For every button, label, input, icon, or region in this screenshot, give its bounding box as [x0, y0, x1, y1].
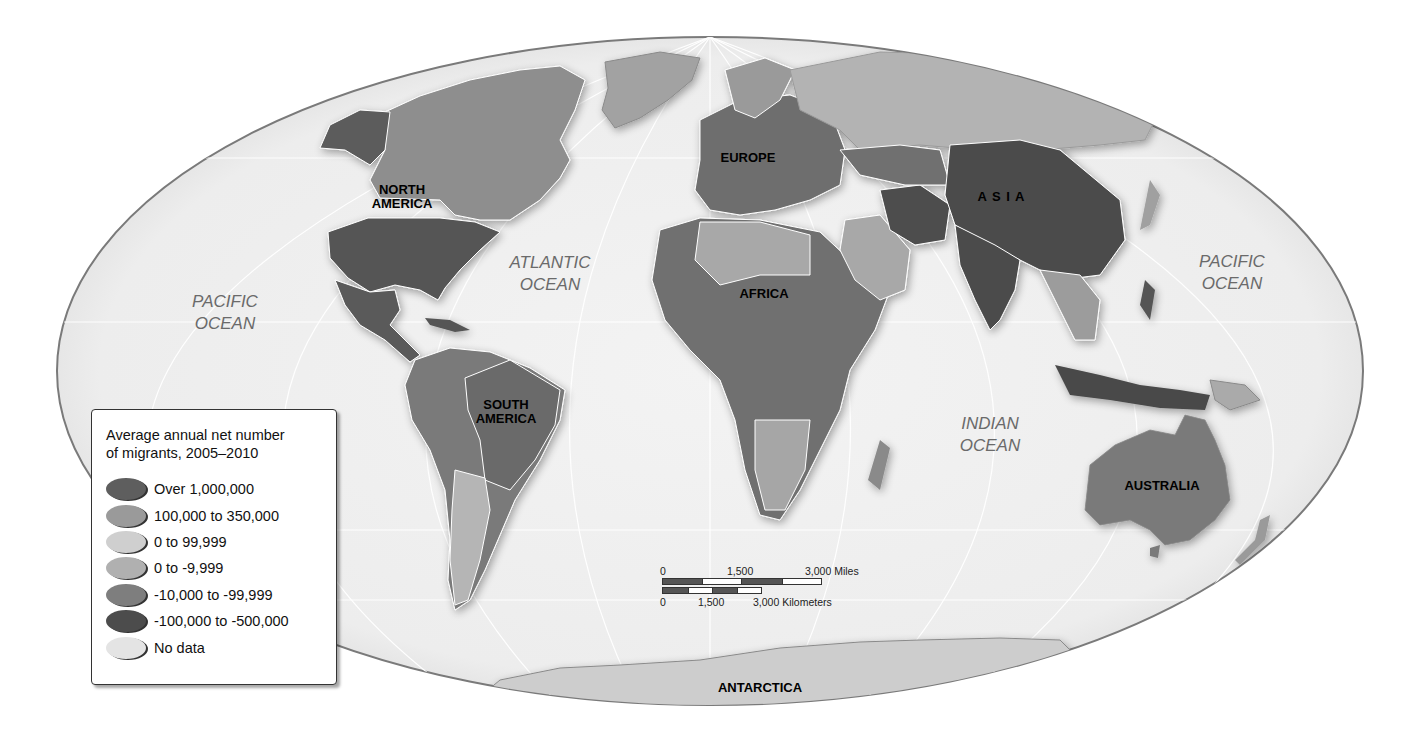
legend-label: Over 1,000,000 [154, 481, 254, 497]
legend-swatch-icon [106, 531, 146, 553]
legend-swatch-icon [106, 505, 146, 527]
legend-label: No data [154, 640, 205, 656]
label-australia: AUSTRALIA [1112, 479, 1212, 493]
label-line: AMERICA [466, 412, 546, 426]
legend-label: 0 to 99,999 [154, 534, 227, 550]
label-antarctica: ANTARCTICA [700, 681, 820, 695]
legend-title-line: of migrants, 2005–2010 [106, 444, 322, 462]
scale-miles-1500: 1,500 [727, 566, 753, 577]
label-south-america: SOUTH AMERICA [466, 398, 546, 426]
legend-item: No data [106, 634, 322, 660]
label-line: OCEAN [945, 435, 1035, 457]
label-line: AFRICA [729, 287, 799, 301]
label-line: AMERICA [362, 197, 442, 211]
russia [790, 52, 1160, 150]
legend-item: 0 to -9,999 [106, 555, 322, 581]
label-line: OCEAN [180, 313, 270, 335]
legend-item: 0 to 99,999 [106, 529, 322, 555]
legend-label: -10,000 to -99,999 [154, 587, 273, 603]
scale-km-0: 0 [660, 597, 666, 608]
label-line: OCEAN [1187, 273, 1277, 295]
legend-item: Over 1,000,000 [106, 476, 322, 502]
label-line: ANTARCTICA [700, 681, 820, 695]
label-line: INDIAN [945, 413, 1035, 435]
legend-item: 100,000 to 350,000 [106, 502, 322, 528]
legend-swatch-icon [106, 584, 146, 606]
label-line: PACIFIC [1187, 251, 1277, 273]
label-line: EUROPE [710, 151, 786, 165]
label-line: A S I A [966, 190, 1036, 204]
label-asia: A S I A [966, 190, 1036, 204]
legend-swatch-icon [106, 557, 146, 579]
label-north-america: NORTH AMERICA [362, 183, 442, 211]
label-line: OCEAN [500, 274, 600, 296]
label-line: NORTH [362, 183, 442, 197]
legend-swatch-icon [106, 637, 146, 659]
scale-miles-0: 0 [660, 566, 666, 577]
label-pacific-ocean-east: PACIFIC OCEAN [1187, 251, 1277, 295]
label-atlantic-ocean: ATLANTIC OCEAN [500, 252, 600, 296]
label-line: ATLANTIC [500, 252, 600, 274]
legend: Average annual net number of migrants, 2… [91, 409, 337, 685]
legend-title: Average annual net number of migrants, 2… [106, 426, 322, 462]
legend-label: -100,000 to -500,000 [154, 613, 289, 629]
label-line: SOUTH [466, 398, 546, 412]
scale-bar: 0 1,500 3,000 Miles 0 1,500 3,000 Kilome… [660, 564, 860, 614]
label-africa: AFRICA [729, 287, 799, 301]
legend-item: -100,000 to -500,000 [106, 608, 322, 634]
legend-label: 0 to -9,999 [154, 560, 223, 576]
scale-km-1500: 1,500 [698, 597, 724, 608]
label-indian-ocean: INDIAN OCEAN [945, 413, 1035, 457]
label-europe: EUROPE [710, 151, 786, 165]
legend-swatch-icon [106, 610, 146, 632]
scale-miles-3000: 3,000 Miles [805, 566, 859, 577]
legend-swatch-icon [106, 478, 146, 500]
legend-item: -10,000 to -99,999 [106, 582, 322, 608]
legend-title-line: Average annual net number [106, 426, 322, 444]
label-line: PACIFIC [180, 291, 270, 313]
scale-km-3000: 3,000 Kilometers [753, 597, 832, 608]
label-line: AUSTRALIA [1112, 479, 1212, 493]
legend-label: 100,000 to 350,000 [154, 508, 279, 524]
label-pacific-ocean-west: PACIFIC OCEAN [180, 291, 270, 335]
